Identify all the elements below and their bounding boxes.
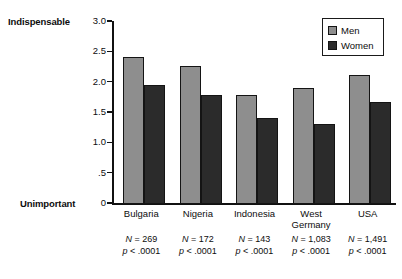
y-tick-label-wrap: 3.0 <box>74 15 106 27</box>
y-tick-mark <box>107 111 112 112</box>
category-label: Bulgaria <box>113 208 170 219</box>
bar-men <box>180 66 201 204</box>
bar-men <box>236 95 257 204</box>
annotation-block: N = 172p < .0001 <box>166 234 231 257</box>
annotation-p: p < .0001 <box>109 246 174 258</box>
y-tick-mark <box>107 172 112 173</box>
y-tick-label: .5 <box>78 167 106 178</box>
y-tick-label: 2.5 <box>78 45 106 56</box>
annotation-p: p < .0001 <box>166 246 231 258</box>
bar-women <box>370 102 391 204</box>
annotation-n: N = 172 <box>166 234 231 246</box>
annotation-n: N = 1,083 <box>279 234 344 246</box>
annotation-n: N = 1,491 <box>335 234 400 246</box>
category-label: Nigeria <box>170 208 227 219</box>
annotation-block: N = 1,083p < .0001 <box>279 234 344 257</box>
legend-label-men: Men <box>341 25 359 36</box>
legend-swatch-women-icon <box>328 41 337 50</box>
annotation-p: p < .0001 <box>279 246 344 258</box>
bar-group <box>113 21 170 204</box>
legend-item-women: Women <box>328 38 383 52</box>
category-label: West Germany <box>283 208 340 230</box>
category-label: Indonesia <box>226 208 283 219</box>
annotation-block: N = 143p < .0001 <box>222 234 287 257</box>
bar-women <box>144 85 165 204</box>
y-tick-mark <box>107 20 112 21</box>
y-tick-mark <box>107 142 112 143</box>
bar-group <box>170 21 227 204</box>
y-tick-label-wrap: 2.5 <box>74 45 106 57</box>
annotation-n: N = 143 <box>222 234 287 246</box>
category-label: USA <box>339 208 396 219</box>
y-tick-label-wrap: 0 <box>74 197 106 209</box>
legend-label-women: Women <box>341 40 374 51</box>
bar-women <box>201 95 222 204</box>
bar-women <box>257 118 278 204</box>
y-tick-label: 1.0 <box>78 136 106 147</box>
legend-swatch-men-icon <box>328 26 337 35</box>
bar-men <box>123 57 144 204</box>
bar-men <box>349 75 370 204</box>
y-tick-mark <box>107 51 112 52</box>
scale-anchor-low-label: Unimportant <box>20 198 75 209</box>
y-tick-label-wrap: 1.0 <box>74 136 106 148</box>
y-tick-label: 1.5 <box>78 106 106 117</box>
bar-group <box>226 21 283 204</box>
annotation-block: N = 269p < .0001 <box>109 234 174 257</box>
bar-women <box>314 124 335 204</box>
annotation-p: p < .0001 <box>222 246 287 258</box>
y-tick-label-wrap: 1.5 <box>74 106 106 118</box>
annotation-n: N = 269 <box>109 234 174 246</box>
y-tick-label: 2.0 <box>78 76 106 87</box>
y-tick-label-wrap: .5 <box>74 167 106 179</box>
scale-anchor-high-label: Indispensable <box>8 16 70 27</box>
bar-chart: Indispensable Unimportant 3.02.52.01.51.… <box>0 0 402 279</box>
bar-men <box>293 88 314 204</box>
y-tick-label: 3.0 <box>78 15 106 26</box>
legend-item-men: Men <box>328 23 383 37</box>
annotation-block: N = 1,491p < .0001 <box>335 234 400 257</box>
y-tick-label: 0 <box>78 197 106 208</box>
annotation-p: p < .0001 <box>335 246 400 258</box>
y-tick-mark <box>107 81 112 82</box>
legend: Men Women <box>322 18 384 56</box>
y-tick-label-wrap: 2.0 <box>74 76 106 88</box>
